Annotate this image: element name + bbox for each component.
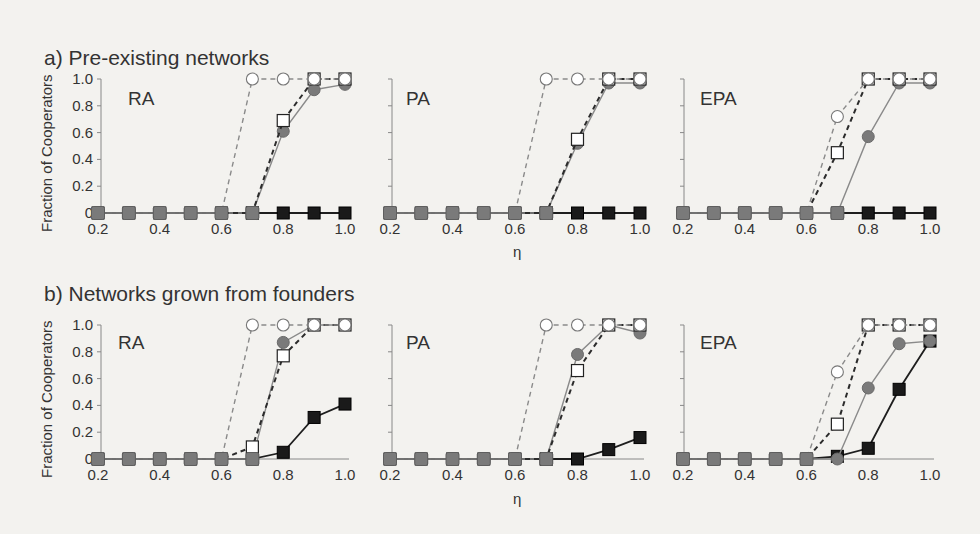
marker-open-circle bbox=[308, 319, 320, 331]
plots-canvas: 00.20.40.60.81.00.20.40.60.81.0RA0.20.40… bbox=[0, 0, 980, 534]
marker-open-circle bbox=[540, 73, 552, 85]
marker-black-square bbox=[603, 207, 615, 219]
series-line bbox=[683, 341, 930, 459]
marker-open-square bbox=[277, 115, 289, 127]
x-tick-label: 0.6 bbox=[211, 220, 232, 237]
marker-gray-square bbox=[509, 207, 522, 220]
marker-black-square bbox=[277, 446, 289, 458]
panel-epa-b: 0.20.40.60.81.0EPA bbox=[673, 319, 941, 483]
marker-gray-square bbox=[707, 453, 720, 466]
x-tick-label: 0.6 bbox=[505, 220, 526, 237]
x-tick-label: 0.6 bbox=[505, 466, 526, 483]
y-tick-label: 0.4 bbox=[72, 396, 93, 413]
x-tick-label: 0.4 bbox=[442, 220, 463, 237]
x-tick-label: 0.8 bbox=[567, 466, 588, 483]
marker-gray-circle bbox=[893, 338, 905, 350]
marker-black-square bbox=[603, 444, 615, 456]
x-tick-label: 1.0 bbox=[335, 466, 356, 483]
marker-black-square bbox=[862, 442, 874, 454]
marker-open-circle bbox=[893, 73, 905, 85]
x-tick-label: 1.0 bbox=[920, 466, 941, 483]
panel-ra-b: 00.20.40.60.81.00.20.40.60.81.0RA bbox=[72, 316, 355, 483]
marker-gray-square bbox=[800, 453, 813, 466]
y-tick-label: 0.2 bbox=[72, 423, 93, 440]
marker-black-square bbox=[634, 207, 646, 219]
marker-gray-square bbox=[92, 453, 105, 466]
x-tick-label: 0.4 bbox=[442, 466, 463, 483]
marker-gray-circle bbox=[572, 348, 584, 360]
marker-black-square bbox=[893, 383, 905, 395]
x-tick-label: 0.4 bbox=[149, 466, 170, 483]
marker-open-circle bbox=[339, 73, 351, 85]
marker-black-square bbox=[893, 207, 905, 219]
x-tick-label: 1.0 bbox=[335, 220, 356, 237]
marker-black-square bbox=[339, 398, 351, 410]
marker-black-square bbox=[924, 207, 936, 219]
x-tick-label: 0.6 bbox=[796, 466, 817, 483]
panel-label: PA bbox=[406, 332, 430, 353]
marker-gray-square bbox=[153, 207, 166, 220]
marker-open-circle bbox=[246, 319, 258, 331]
x-tick-label: 0.4 bbox=[734, 220, 755, 237]
marker-gray-square bbox=[215, 453, 228, 466]
x-tick-label: 1.0 bbox=[630, 466, 651, 483]
panel-pa-a: 0.20.40.60.81.0PA bbox=[380, 73, 651, 237]
y-tick-label: 0.8 bbox=[72, 97, 93, 114]
marker-gray-square bbox=[384, 207, 397, 220]
y-tick-label: 0.6 bbox=[72, 124, 93, 141]
x-tick-label: 0.2 bbox=[88, 220, 109, 237]
marker-gray-square bbox=[738, 453, 751, 466]
marker-open-circle bbox=[634, 319, 646, 331]
marker-gray-square bbox=[246, 453, 259, 466]
figure: a) Pre-existing networks b) Networks gro… bbox=[0, 0, 980, 534]
marker-gray-square bbox=[122, 207, 135, 220]
marker-gray-square bbox=[446, 453, 459, 466]
x-tick-label: 0.2 bbox=[673, 220, 694, 237]
y-tick-label: 0.2 bbox=[72, 177, 93, 194]
panel-ra-a: 00.20.40.60.81.00.20.40.60.81.0RA bbox=[72, 70, 355, 237]
marker-gray-square bbox=[184, 207, 197, 220]
y-tick-label: 0.4 bbox=[72, 150, 93, 167]
panel-pa-b: 0.20.40.60.81.0PA bbox=[380, 319, 651, 483]
y-tick-label: 0.8 bbox=[72, 343, 93, 360]
marker-gray-square bbox=[738, 207, 751, 220]
marker-gray-square bbox=[384, 453, 397, 466]
marker-black-square bbox=[634, 432, 646, 444]
panel-label: PA bbox=[406, 88, 430, 109]
marker-open-circle bbox=[277, 319, 289, 331]
marker-gray-square bbox=[184, 453, 197, 466]
panel-label: RA bbox=[118, 332, 145, 353]
marker-gray-square bbox=[800, 207, 813, 220]
marker-open-square bbox=[831, 147, 843, 159]
marker-gray-square bbox=[677, 207, 690, 220]
marker-open-circle bbox=[603, 319, 615, 331]
x-tick-label: 0.2 bbox=[88, 466, 109, 483]
marker-black-square bbox=[308, 207, 320, 219]
marker-open-circle bbox=[308, 73, 320, 85]
marker-gray-circle bbox=[831, 453, 843, 465]
marker-gray-square bbox=[246, 207, 259, 220]
marker-open-circle bbox=[862, 319, 874, 331]
marker-black-square bbox=[339, 207, 351, 219]
marker-open-square bbox=[246, 441, 258, 453]
x-tick-label: 1.0 bbox=[630, 220, 651, 237]
marker-black-square bbox=[572, 207, 584, 219]
x-tick-label: 0.8 bbox=[567, 220, 588, 237]
marker-open-circle bbox=[339, 319, 351, 331]
marker-gray-square bbox=[415, 207, 428, 220]
x-tick-label: 0.4 bbox=[734, 466, 755, 483]
marker-open-circle bbox=[603, 73, 615, 85]
marker-gray-circle bbox=[277, 336, 289, 348]
marker-gray-square bbox=[769, 453, 782, 466]
marker-open-circle bbox=[862, 73, 874, 85]
marker-open-circle bbox=[572, 319, 584, 331]
marker-open-circle bbox=[924, 319, 936, 331]
marker-gray-square bbox=[677, 453, 690, 466]
marker-gray-circle bbox=[862, 382, 874, 394]
x-tick-label: 0.8 bbox=[273, 220, 294, 237]
marker-open-square bbox=[277, 350, 289, 362]
marker-open-circle bbox=[893, 319, 905, 331]
marker-open-square bbox=[572, 133, 584, 145]
marker-black-square bbox=[308, 411, 320, 423]
marker-gray-square bbox=[122, 453, 135, 466]
